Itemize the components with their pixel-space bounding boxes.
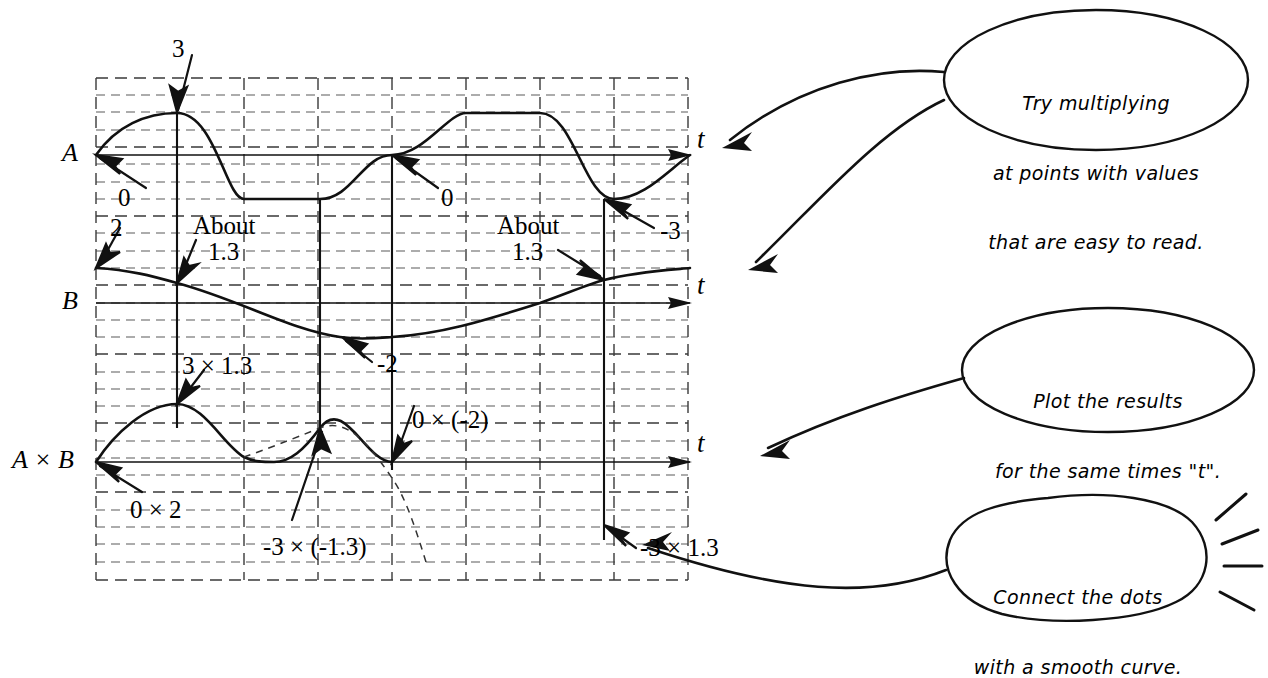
callout-3-line-2: with a smooth curve. [958, 656, 1198, 678]
annotation-arrows [96, 55, 654, 548]
callout-arrowheads [642, 132, 790, 551]
time-axis-label-b: t [697, 272, 705, 299]
annotation-a-start: 0 [118, 185, 131, 210]
annotation-about-left-1: About [193, 213, 256, 238]
axis-label-a-times-b: A × B [12, 447, 74, 473]
callout-text-connect-dots: Connect the dots with a smooth curve. [958, 540, 1198, 678]
callout-1-line-1: Try multiplying [976, 92, 1216, 115]
callout-3-line-1: Connect the dots [958, 586, 1198, 609]
annotation-product-0x2: 0 × 2 [130, 497, 182, 522]
axis-label-a: A [62, 140, 78, 166]
annotation-a-zero-mid: 0 [441, 185, 454, 210]
annotation-b-min: -2 [377, 351, 398, 376]
callout-text-try-multiplying: Try multiplying at points with values th… [976, 46, 1216, 301]
annotation-a-min-right: -3 [660, 218, 681, 243]
annotation-about-right-1: About [497, 213, 560, 238]
time-axis-label-a: t [697, 126, 705, 153]
callout-1-line-3: that are easy to read. [976, 231, 1216, 254]
callout-leaders [648, 71, 964, 588]
callout-2-line-1: Plot the results [988, 390, 1228, 413]
callout-text-plot-results: Plot the results for the same times "t". [988, 344, 1228, 529]
time-axis-label-a-times-b: t [697, 430, 705, 457]
axis-label-b: B [62, 288, 78, 314]
annotation-product-minus3x13: -3 × 1.3 [640, 535, 719, 560]
annotation-a-peak: 3 [172, 36, 185, 61]
callout-1-line-2: at points with values [976, 162, 1216, 185]
annotation-product-3x13: 3 × 1.3 [182, 353, 252, 378]
annotation-product-minus3x-minus13: -3 × (-1.3) [263, 534, 367, 559]
annotation-b-start: 2 [110, 215, 123, 240]
callout-2-line-2: for the same times "t". [988, 460, 1228, 483]
annotation-product-0x-minus2: 0 × (-2) [412, 407, 489, 432]
annotation-about-left-2: 1.3 [208, 239, 239, 264]
annotation-about-right-2: 1.3 [512, 239, 543, 264]
